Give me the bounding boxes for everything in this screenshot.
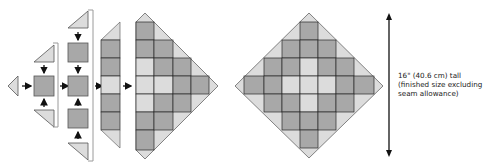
bottom-triangle [68,143,88,160]
square [68,43,88,62]
caption-line-2: (finished size excluding [398,80,498,89]
dimension-caption: 16" (40.6 cm) tall (finished size exclud… [398,71,498,99]
step-2-group [68,10,102,161]
square [68,109,88,128]
step-4-half-diamond [136,13,218,159]
square [68,76,88,96]
step-1-group [8,43,68,127]
caption-line-1: 16" (40.6 cm) tall [398,71,498,80]
top-triangle [68,11,88,28]
top-triangle [34,45,54,62]
bracket [88,10,93,161]
left-triangle [8,76,18,96]
final-diamond-block [235,13,383,158]
bottom-triangle [34,110,54,127]
step-3-strip [101,22,131,148]
caption-line-3: seam allowance) [398,89,498,98]
center-square [34,76,54,96]
height-dimension-arrow [386,13,392,157]
